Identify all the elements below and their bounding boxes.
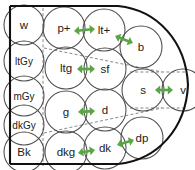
node-ltGy-label: ltGy bbox=[15, 56, 33, 67]
node-sf-label: sf bbox=[101, 63, 111, 75]
node-b[interactable]: b bbox=[120, 26, 162, 68]
node-dkg-label: dkg bbox=[57, 146, 76, 158]
node-ltg-label: ltg bbox=[60, 62, 72, 74]
node-d-label: d bbox=[102, 104, 108, 116]
node-dp-label: dp bbox=[136, 132, 149, 144]
node-p-plus-label: p+ bbox=[57, 22, 70, 34]
node-w-label: w bbox=[19, 19, 29, 31]
node-dkGy-label: dkGy bbox=[12, 120, 35, 131]
node-g-label: g bbox=[63, 106, 69, 118]
diagram-canvas: w ltGy mGy dkGy Bk p+lt+bltgsfsvgddkgdkd… bbox=[0, 0, 195, 170]
node-Bk-label: Bk bbox=[17, 146, 31, 158]
node-v-label: v bbox=[180, 84, 186, 96]
color-value-diagram: w ltGy mGy dkGy Bk p+lt+bltgsfsvgddkgdkd… bbox=[0, 0, 195, 170]
node-dk-label: dk bbox=[99, 142, 111, 154]
node-mGy-label: mGy bbox=[13, 91, 34, 102]
node-dp[interactable]: dp bbox=[121, 117, 163, 159]
node-s-label: s bbox=[140, 84, 146, 96]
node-lt-plus-label: lt+ bbox=[98, 24, 111, 36]
node-b-label: b bbox=[138, 41, 144, 53]
